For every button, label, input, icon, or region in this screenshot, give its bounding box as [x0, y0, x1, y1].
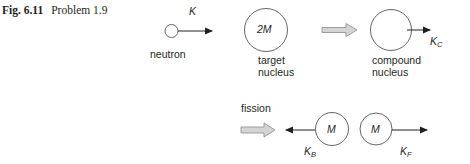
compound-nucleus-circle — [371, 10, 412, 51]
neutron-circle — [165, 25, 178, 38]
fission-label: fission — [241, 102, 271, 114]
compound-nucleus: KC compound nucleus — [371, 10, 444, 79]
neutron-energy-label: K — [189, 5, 197, 17]
compound-label-line1: compound — [372, 54, 421, 66]
target-label-line2: nucleus — [258, 66, 294, 78]
backward-fragment-mass: M — [327, 123, 336, 135]
backward-fragment-energy: KB — [304, 145, 316, 159]
target-mass-label: 2M — [256, 23, 272, 35]
neutron-label: neutron — [150, 48, 186, 60]
forward-fragment-mass: M — [371, 123, 380, 135]
fission-diagram: K neutron 2M target nucleus KC compound … — [0, 0, 470, 164]
target-nucleus: 2M target nucleus — [245, 9, 295, 79]
target-label-line1: target — [258, 54, 285, 66]
reaction-arrow-icon — [322, 24, 357, 37]
forward-fragment-energy: KF — [400, 145, 412, 159]
fission-stage: fission M KB M KF — [241, 102, 427, 159]
fission-arrow-icon — [241, 123, 275, 137]
compound-energy-label: KC — [430, 35, 443, 49]
compound-label-line2: nucleus — [372, 66, 408, 78]
neutron: K neutron — [150, 5, 212, 60]
